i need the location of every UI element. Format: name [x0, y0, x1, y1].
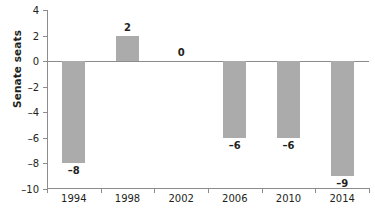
x-tick-label: 2002 — [168, 193, 193, 204]
y-tick-mark — [43, 10, 48, 11]
y-tick-label: 4 — [33, 5, 39, 16]
bar-value-label: 2 — [124, 22, 131, 33]
x-tick-mark — [262, 188, 263, 193]
y-axis-title: Senate seats — [10, 14, 24, 124]
y-axis-line — [47, 10, 48, 189]
bar — [277, 61, 300, 138]
x-tick-mark — [101, 188, 102, 193]
x-tick-label: 1998 — [115, 193, 140, 204]
bar-value-label: –8 — [68, 165, 80, 176]
y-tick-mark — [43, 112, 48, 113]
x-tick-label: 1994 — [61, 193, 86, 204]
x-tick-label: 2010 — [276, 193, 301, 204]
y-tick-mark — [43, 87, 48, 88]
bar — [62, 61, 85, 163]
y-tick-label: –8 — [28, 158, 39, 169]
bar-value-label: –6 — [229, 140, 241, 151]
bar-value-label: 0 — [178, 47, 185, 58]
x-tick-mark — [315, 188, 316, 193]
x-tick-mark — [47, 188, 48, 193]
x-tick-mark — [369, 188, 370, 193]
y-tick-label: –4 — [28, 107, 39, 118]
plot-area: 420–2–4–6–8–10 199419982002200620102014 … — [47, 10, 369, 189]
y-tick-label: 2 — [33, 30, 39, 41]
x-tick-mark — [154, 188, 155, 193]
x-tick-label: 2006 — [222, 193, 247, 204]
zero-reference-line — [47, 61, 369, 62]
bar — [116, 36, 139, 62]
x-tick-label: 2014 — [329, 193, 354, 204]
y-tick-label: 0 — [33, 56, 39, 67]
x-tick-mark — [208, 188, 209, 193]
y-tick-mark — [43, 163, 48, 164]
bar-chart: Senate seats 420–2–4–6–8–10 199419982002… — [0, 0, 375, 220]
y-tick-label: –10 — [21, 184, 39, 195]
bar-value-label: –6 — [283, 140, 295, 151]
bar-value-label: –9 — [336, 178, 348, 189]
y-tick-label: –6 — [28, 132, 39, 143]
y-tick-label: –2 — [28, 81, 39, 92]
bar — [331, 61, 354, 176]
y-tick-mark — [43, 138, 48, 139]
y-tick-mark — [43, 61, 48, 62]
bar — [223, 61, 246, 138]
y-tick-mark — [43, 36, 48, 37]
